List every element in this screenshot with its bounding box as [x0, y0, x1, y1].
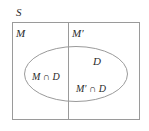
- universal-set-label: S: [16, 7, 22, 18]
- set-d-label: D: [93, 56, 101, 67]
- venn-diagram-canvas: [0, 0, 149, 131]
- set-m-label: M: [16, 28, 25, 39]
- set-m-complement-label: M′: [72, 28, 84, 39]
- m-complement-intersect-d-label: M′ ∩ D: [76, 84, 106, 94]
- m-intersect-d-label: M ∩ D: [32, 72, 60, 82]
- venn-diagram-figure: S M M′ D M ∩ D M′ ∩ D: [0, 0, 149, 131]
